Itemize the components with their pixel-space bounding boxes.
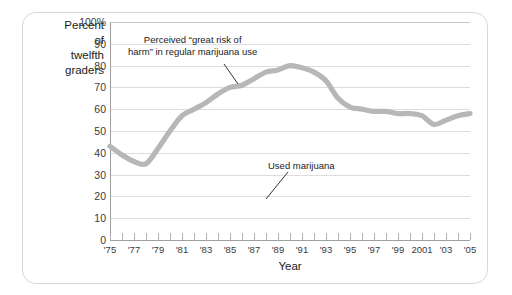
annotation-leader-lines [0, 0, 512, 295]
chart-figure: Percent of twelfth graders 100%908070605… [0, 0, 512, 295]
